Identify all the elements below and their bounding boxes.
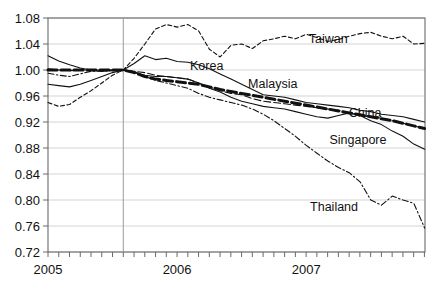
y-axis-label: 0.92 — [15, 115, 40, 130]
y-axis-label: 1.08 — [15, 11, 40, 26]
line-chart: 1.081.041.000.960.920.880.840.800.760.72… — [0, 0, 438, 285]
y-axis-label: 1.00 — [15, 63, 40, 78]
series-inline-labels: TaiwanKoreaMalaysiaChinaSingaporeThailan… — [190, 32, 386, 214]
series-label-singapore: Singapore — [329, 133, 386, 147]
x-axis-label: 2007 — [292, 262, 321, 277]
y-axis-label: 0.76 — [15, 219, 40, 234]
x-axis-label: 2005 — [34, 262, 63, 277]
y-axis-label: 0.80 — [15, 193, 40, 208]
y-axis-label: 0.84 — [15, 167, 40, 182]
y-axis-label: 0.88 — [15, 141, 40, 156]
x-axis-tick-labels: 200520062007 — [34, 262, 321, 277]
series-lines — [48, 25, 425, 228]
series-label-korea: Korea — [190, 59, 223, 73]
y-axis-label: 0.72 — [15, 245, 40, 260]
x-axis-label: 2006 — [163, 262, 192, 277]
y-axis-tickmarks — [43, 18, 48, 252]
y-axis-label: 0.96 — [15, 89, 40, 104]
series-label-taiwan: Taiwan — [309, 32, 348, 46]
y-axis-label: 1.04 — [15, 37, 40, 52]
x-axis-tickmarks — [48, 252, 424, 257]
series-label-thailand: Thailand — [310, 200, 358, 214]
series-label-malaysia: Malaysia — [248, 77, 297, 91]
y-axis-tick-labels: 1.081.041.000.960.920.880.840.800.760.72 — [15, 11, 40, 260]
series-label-china: China — [349, 106, 382, 120]
chart-canvas: 1.081.041.000.960.920.880.840.800.760.72… — [0, 0, 438, 285]
